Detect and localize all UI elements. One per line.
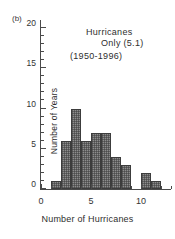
y-axis-minor-tick [41, 75, 44, 76]
x-axis-minor-tick [81, 186, 82, 189]
y-axis-minor-tick [41, 83, 44, 84]
x-axis-minor-tick [61, 186, 62, 189]
histogram-bar [91, 133, 101, 189]
y-axis-minor-tick [41, 180, 44, 181]
histogram-bar [121, 165, 131, 189]
y-axis-tick [41, 67, 46, 68]
y-axis-minor-tick [41, 124, 44, 125]
x-axis-tick-label: 0 [31, 196, 51, 206]
histogram-bar [151, 181, 161, 189]
x-axis-minor-tick [161, 186, 162, 189]
x-axis-minor-tick [111, 186, 112, 189]
x-axis-tick-label: 10 [131, 196, 151, 206]
y-axis-minor-tick [41, 116, 44, 117]
x-axis-title: Number of Hurricanes [0, 214, 175, 224]
plot-area: Number of Years 051015200510 [40, 20, 171, 190]
y-axis-minor-tick [41, 43, 44, 44]
y-axis-tick-label: 20 [14, 18, 36, 28]
x-axis-minor-tick [71, 186, 72, 189]
figure-panel: (b) Hurricanes Only (5.1) (1950-1996) Nu… [0, 0, 175, 239]
x-axis-tick-label: 5 [81, 196, 101, 206]
histogram-bar [51, 181, 61, 189]
x-axis-minor-tick [101, 186, 102, 189]
histogram-bar [141, 173, 151, 189]
y-axis-minor-tick [41, 172, 44, 173]
x-axis-minor-tick [121, 186, 122, 189]
x-axis-minor-tick [51, 186, 52, 189]
x-axis-minor-tick [151, 186, 152, 189]
y-axis-tick-label: 5 [14, 139, 36, 149]
histogram-bar [111, 157, 121, 189]
y-axis-minor-tick [41, 35, 44, 36]
y-axis-tick [41, 148, 46, 149]
x-axis-tick [41, 184, 42, 189]
y-axis-minor-tick [41, 164, 44, 165]
y-axis-minor-tick [41, 99, 44, 100]
x-axis-tick [91, 184, 92, 189]
y-axis-tick [41, 27, 46, 28]
x-axis-line [40, 189, 171, 190]
histogram-bar [101, 133, 111, 189]
histogram-bar [71, 109, 81, 189]
y-axis-tick-label: 15 [14, 58, 36, 68]
y-axis-minor-tick [41, 156, 44, 157]
y-axis-title: Number of Years [49, 61, 59, 181]
y-axis-tick-label: 10 [14, 99, 36, 109]
y-axis-minor-tick [41, 140, 44, 141]
y-axis-minor-tick [41, 51, 44, 52]
x-axis-tick [141, 184, 142, 189]
y-axis-minor-tick [41, 132, 44, 133]
histogram-bar [61, 141, 71, 189]
y-axis-minor-tick [41, 59, 44, 60]
y-axis-tick-label: 0 [14, 179, 36, 189]
x-axis-minor-tick [131, 186, 132, 189]
x-axis-minor-tick [171, 186, 172, 189]
histogram-bar [81, 141, 91, 189]
y-axis-minor-tick [41, 91, 44, 92]
y-axis-tick [41, 108, 46, 109]
